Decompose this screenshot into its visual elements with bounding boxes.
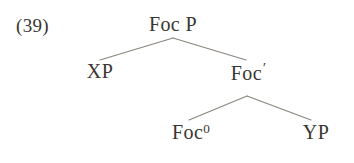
branch-foc-bar-to-foc-head [189, 96, 247, 120]
syntax-tree-figure: (39) Foc P XP Foc′ Foc0 YP [0, 0, 354, 163]
tree-node-foc-p: Foc P [149, 14, 197, 34]
foc-head-base: Foc [172, 121, 203, 143]
tree-node-yp: YP [303, 122, 329, 142]
tree-node-foc-head: Foc0 [172, 122, 210, 142]
branch-root-to-xp [100, 38, 173, 60]
tree-node-foc-bar: Foc′ [231, 61, 265, 83]
prime-mark: ′ [262, 60, 265, 76]
foc-bar-base: Foc [231, 62, 262, 84]
tree-node-xp: XP [87, 61, 113, 81]
superscript-zero: 0 [203, 121, 210, 136]
branch-root-to-foc-bar [173, 38, 246, 60]
branch-foc-bar-to-yp [247, 96, 311, 120]
